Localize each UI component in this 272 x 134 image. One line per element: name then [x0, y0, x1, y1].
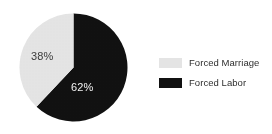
pie-chart-graphic: [19, 13, 128, 122]
pie-chart-figure: 38% 62% Forced Marriage Forced Labor: [0, 0, 272, 134]
legend-swatch-icon-forced-marriage: [159, 58, 182, 68]
slice-label-forced-marriage: 38%: [31, 51, 53, 62]
legend-item-forced-labor[interactable]: Forced Labor: [159, 73, 271, 93]
slice-label-forced-labor: 62%: [71, 82, 93, 93]
chart-legend: Forced Marriage Forced Labor: [159, 53, 271, 93]
legend-label-forced-marriage: Forced Marriage: [189, 58, 259, 68]
legend-label-forced-labor: Forced Labor: [189, 78, 246, 88]
pie-svg: [19, 13, 128, 122]
legend-swatch-icon-forced-labor: [159, 78, 182, 88]
legend-item-forced-marriage[interactable]: Forced Marriage: [159, 53, 271, 73]
